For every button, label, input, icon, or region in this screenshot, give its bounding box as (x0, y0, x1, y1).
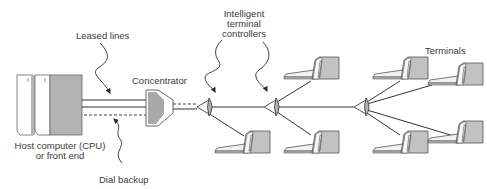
network-diagram: Leased lines Concentrator Intelligent te… (0, 0, 487, 189)
label-host-line-2: or front end (36, 150, 85, 161)
label-leased-lines: Leased lines (76, 30, 130, 41)
terminal-controller-1 (197, 98, 212, 116)
label-terminals: Terminals (425, 45, 466, 56)
terminal-7 (428, 121, 483, 143)
label-concentrator: Concentrator (132, 75, 187, 86)
terminal-2 (284, 57, 339, 79)
terminal-5 (428, 63, 483, 85)
label-dial-backup: Dial backup (99, 174, 149, 185)
host-computer (17, 75, 82, 135)
network-links (208, 81, 454, 136)
label-controllers-line-3: controllers (222, 28, 266, 39)
terminal-controller-2 (264, 98, 279, 116)
terminal-1 (215, 131, 270, 153)
terminal-3 (284, 131, 339, 153)
leased-lines (82, 100, 146, 107)
terminal-6 (373, 131, 428, 153)
terminal-4 (373, 57, 428, 79)
terminal-controller-3 (354, 98, 369, 116)
concentrator (146, 90, 173, 126)
